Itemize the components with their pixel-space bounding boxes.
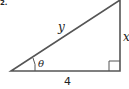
adjacent-side-label: 4 xyxy=(64,75,71,88)
hypotenuse-label: y xyxy=(57,20,65,34)
angle-arc xyxy=(33,58,35,71)
problem-number: 2. xyxy=(0,0,8,7)
triangle xyxy=(11,0,120,71)
right-triangle-diagram: 2. y x θ 4 xyxy=(0,0,129,89)
angle-theta-label: θ xyxy=(38,58,44,69)
opposite-side-label: x xyxy=(123,30,129,44)
right-angle-marker xyxy=(109,61,120,71)
